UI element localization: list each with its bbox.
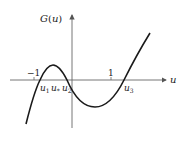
tick-label-one: 1 (108, 68, 114, 78)
max-label-ustar: u* (51, 83, 60, 94)
root-label-u2: u2 (62, 83, 72, 94)
root-label-u1: u1 (40, 83, 50, 94)
x-axis-label: u (170, 74, 176, 85)
cubic-graph: G(u) u −1 1 u1 u* u2 u3 (0, 0, 182, 148)
g-curve (26, 33, 150, 124)
root-label-u3: u3 (124, 83, 134, 94)
tick-label-minus-one: −1 (27, 68, 40, 78)
y-axis-label: G(u) (40, 13, 62, 24)
